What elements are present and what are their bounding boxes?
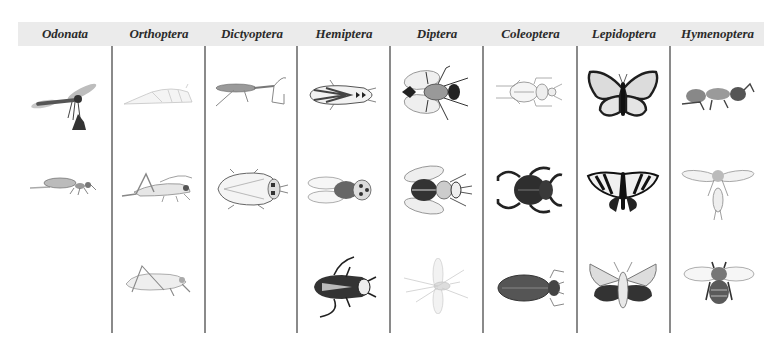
column-divider [669, 46, 671, 333]
leafhopper-icon [306, 78, 378, 112]
column-divider [576, 46, 578, 333]
housefly-icon [398, 64, 474, 122]
order-label-diptera: Diptera [391, 22, 483, 46]
longhorn-beetle-icon [494, 268, 566, 310]
order-label-dictyoptera: Dictyoptera [206, 22, 298, 46]
cicada-icon [306, 172, 378, 208]
bee-icon [682, 260, 756, 310]
order-label-hemiptera: Hemiptera [298, 22, 390, 46]
order-label-orthoptera: Orthoptera [113, 22, 205, 46]
order-label-hymenoptera: Hymenoptera [671, 22, 764, 46]
crane-fly-icon [402, 258, 474, 314]
wasp-icon [680, 164, 756, 220]
horsefly-icon [400, 162, 474, 218]
damselfly-icon [28, 78, 102, 134]
grasshopper-icon [120, 172, 196, 202]
column-divider [111, 46, 113, 333]
mantis-icon [214, 72, 290, 112]
monarch-butterfly-icon [586, 68, 660, 120]
swallowtail-butterfly-icon [586, 164, 660, 216]
grasshopper-pale-icon [122, 82, 198, 108]
column-divider [204, 46, 206, 333]
sphinx-moth-icon [586, 258, 660, 314]
ant-icon [680, 80, 756, 114]
order-label-coleoptera: Coleoptera [484, 22, 577, 46]
ground-beetle-icon [494, 74, 564, 110]
column-divider [389, 46, 391, 333]
column-divider [296, 46, 298, 333]
water-bug-icon [306, 255, 378, 319]
cockroach-icon [214, 167, 290, 211]
order-label-odonata: Odonata [18, 22, 112, 46]
dragonfly-nymph-icon [30, 172, 98, 196]
cricket-icon [120, 262, 196, 296]
order-label-lepidoptera: Lepidoptera [578, 22, 670, 46]
scarab-beetle-icon [494, 163, 564, 217]
column-divider [482, 46, 484, 333]
